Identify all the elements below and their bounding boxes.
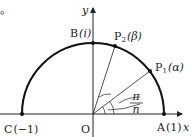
angle-arc-between xyxy=(99,94,111,97)
y-axis-label: y xyxy=(81,4,89,17)
origin-label: O xyxy=(81,123,90,136)
point-a xyxy=(162,112,166,116)
radius-p1 xyxy=(93,71,150,114)
angle-numerator: π xyxy=(131,90,140,103)
angle-denominator: n xyxy=(132,103,139,116)
point-p2-label: P2(β) xyxy=(114,30,142,44)
point-a-label: A(1) xyxy=(156,121,182,134)
x-axis-label: x xyxy=(183,121,190,134)
unit-circle-diagram: 。 x y O A(1) C(−1) B(i) P2(β) P1(α) π n xyxy=(0,0,194,137)
point-b xyxy=(91,41,95,45)
point-p1 xyxy=(148,69,152,73)
stray-mark: 。 xyxy=(0,4,11,17)
point-b-label: B(i) xyxy=(70,27,91,40)
angle-arc-outer xyxy=(110,101,114,114)
point-p2 xyxy=(113,44,117,48)
point-c xyxy=(20,112,24,116)
point-c-label: C(−1) xyxy=(4,123,38,136)
angle-arc-alpha xyxy=(103,107,105,114)
point-p1-label: P1(α) xyxy=(155,61,184,75)
